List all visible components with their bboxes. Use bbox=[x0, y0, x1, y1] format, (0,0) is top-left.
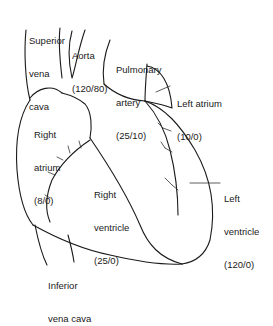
label-aorta: Aorta (120/80) bbox=[72, 28, 107, 116]
label-pulmonary-artery: Pulmonary artery (25/10) bbox=[116, 42, 161, 163]
label-inferior-vena-cava: Inferior vena cava bbox=[48, 258, 91, 326]
label-left-ventricle: Left ventricle (120/0) bbox=[224, 171, 259, 292]
label-left-atrium: Left atrium (10/0) bbox=[177, 76, 222, 164]
label-right-ventricle: Right ventricle (25/0) bbox=[94, 167, 129, 288]
label-right-atrium: Right atrium (8/0) bbox=[34, 107, 60, 228]
